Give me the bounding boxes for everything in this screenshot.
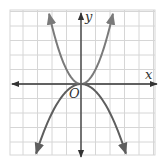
coordinate-graph	[0, 0, 162, 161]
x-axis-label: x	[145, 67, 152, 82]
grid-lines	[10, 10, 155, 155]
origin-label: O	[69, 86, 80, 101]
y-axis-label: y	[85, 9, 92, 24]
